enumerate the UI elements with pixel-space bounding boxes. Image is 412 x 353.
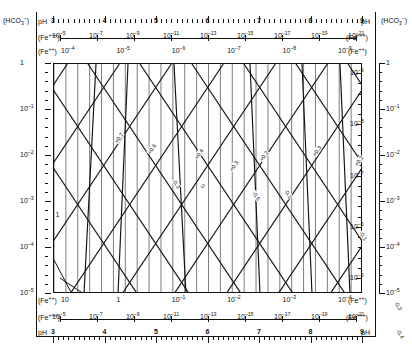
ph-minor-tick — [233, 19, 234, 23]
hco3-right-minor-tick — [379, 173, 382, 174]
ph-minor-tick — [192, 19, 193, 23]
y-left-tickcol — [45, 63, 55, 293]
ph-tick-label: 5 — [154, 328, 158, 335]
fe3-tick-label: 10–21 — [348, 32, 364, 39]
hco3-left-minor-tick — [45, 192, 48, 193]
ph-minor-tick — [269, 19, 270, 23]
ph-minor-tick — [244, 19, 245, 23]
ph-tick-label: 8 — [309, 328, 313, 335]
ph-major-tick — [362, 336, 363, 343]
fe3-tick-label: 10–11 — [163, 313, 179, 320]
ph-tick-label: 9 — [360, 17, 364, 24]
corner-label-top-left: (HCO3–) — [3, 17, 29, 24]
fe2-tick-label: 10–9 — [338, 47, 352, 54]
steep-line — [340, 64, 350, 293]
fe2-tick-label: 10–1 — [172, 296, 186, 303]
fe3-tick-label: 10–5 — [52, 32, 66, 39]
ph-tick-label: 6 — [206, 17, 210, 24]
hco3-right-minor-tick — [379, 275, 382, 276]
hco3-right-major-tick — [379, 247, 385, 248]
ph-tick-label: 8 — [309, 17, 313, 24]
hco3-left-minor-tick — [45, 256, 48, 257]
hco3-left-minor-tick — [45, 91, 48, 92]
fe2-tick-label: 10 — [61, 296, 69, 303]
hco3-right-tick-label: 10–3 — [386, 197, 400, 204]
hco3-right-minor-tick — [379, 72, 382, 73]
ph-minor-tick — [357, 19, 358, 23]
fe3-tick-label: 10–7 — [89, 32, 103, 39]
inner-right-minor-tick — [358, 206, 361, 207]
hco3-left-minor-tick — [45, 146, 48, 147]
eh-falling-line — [140, 64, 293, 293]
hco3-right-minor-tick — [379, 183, 382, 184]
ph-minor-tick — [249, 19, 250, 23]
hco3-right-minor-tick — [379, 256, 382, 257]
fe3-tick-label: 10–9 — [126, 32, 140, 39]
fe2-top-left-label: (Fe++) — [38, 48, 57, 55]
ph-tick-label: 4 — [103, 17, 107, 24]
ph-tick-label: 3 — [51, 328, 55, 335]
eh-rising-line — [122, 64, 275, 293]
inner-right-minor-tick — [358, 104, 361, 105]
ph-minor-tick — [58, 19, 59, 23]
ph-major-tick — [156, 336, 157, 343]
ph-bottom-left-label: pH — [38, 329, 47, 336]
fe2-tick-label: 10–4 — [338, 296, 352, 303]
hco3-right-major-tick — [379, 63, 385, 64]
eh-value-label: -0.4 — [395, 328, 406, 340]
hco3-right-tick-label: 1 — [386, 59, 390, 66]
inner-marker-label: 1 — [55, 211, 60, 218]
inner-right-tick-label: 10–8 — [350, 120, 364, 127]
hco3-left-tick-label: 10–3 — [20, 197, 34, 204]
hco3-left-minor-tick — [45, 229, 48, 230]
hco3-left-tick-label: 10–1 — [20, 105, 34, 112]
inner-right-minor-tick — [358, 83, 361, 84]
inner-right-minor-tick — [358, 145, 361, 146]
hco3-right-major-tick — [379, 201, 385, 202]
hco3-right-major-tick — [379, 293, 385, 294]
fe2-tick-label: 10–8 — [283, 47, 297, 54]
ph-minor-tick — [295, 19, 296, 23]
ph-minor-tick — [264, 19, 265, 23]
ph-minor-tick — [274, 19, 275, 23]
plot-area — [53, 63, 362, 293]
hco3-left-major-tick — [45, 63, 51, 64]
hco3-left-major-tick — [45, 155, 51, 156]
ph-minor-tick — [187, 19, 188, 23]
hco3-right-minor-tick — [379, 284, 382, 285]
hco3-right-minor-tick — [379, 91, 382, 92]
hco3-left-tick-label: 10–2 — [20, 151, 34, 158]
ph-minor-tick — [79, 19, 80, 23]
fe3-tick-label: 10–11 — [163, 32, 179, 39]
hco3-left-minor-tick — [45, 238, 48, 239]
hco3-left-minor-tick — [45, 72, 48, 73]
ph-minor-tick — [115, 19, 116, 23]
ph-minor-tick — [316, 19, 317, 23]
hco3-left-major-tick — [45, 109, 51, 110]
fe2-tick-label: 10–7 — [227, 47, 241, 54]
ph-minor-tick — [321, 19, 322, 23]
ph-minor-tick — [146, 19, 147, 23]
fe2-tick-label: 10–4 — [61, 47, 75, 54]
hco3-left-major-tick — [45, 247, 51, 248]
ph-minor-tick — [202, 19, 203, 23]
ph-minor-tick — [151, 19, 152, 23]
hco3-left-minor-tick — [45, 275, 48, 276]
ph-minor-tick — [331, 19, 332, 23]
ph-top-left-label: pH — [38, 18, 47, 25]
eh-falling-line — [54, 64, 189, 293]
hco3-left-minor-tick — [45, 265, 48, 266]
fe2-tick-label: 10–3 — [283, 296, 297, 303]
bottom-frame-rule — [36, 336, 376, 337]
hco3-right-minor-tick — [379, 229, 382, 230]
fe2-tick-label: 10–2 — [227, 296, 241, 303]
inner-right-minor-tick — [358, 135, 361, 136]
ph-minor-tick — [84, 19, 85, 23]
ph-minor-tick — [99, 19, 100, 23]
hco3-left-minor-tick — [45, 100, 48, 101]
ph-minor-tick — [182, 19, 183, 23]
ph-minor-tick — [130, 19, 131, 23]
ph-minor-tick — [352, 19, 353, 23]
hco3-right-major-tick — [379, 155, 385, 156]
hco3-right-minor-tick — [379, 238, 382, 239]
